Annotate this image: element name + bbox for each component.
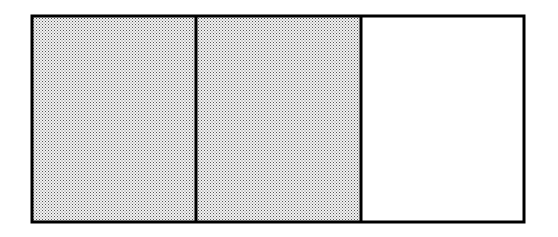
part-3-unshaded xyxy=(361,16,524,222)
part-1-shaded xyxy=(32,16,196,222)
fraction-bar-diagram xyxy=(0,0,558,237)
part-2-shaded xyxy=(196,16,361,222)
